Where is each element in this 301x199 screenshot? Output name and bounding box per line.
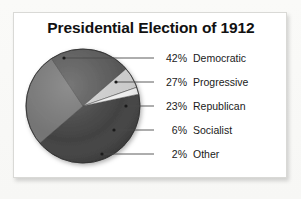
pie-chart	[25, 40, 150, 170]
legend-label-progressive: Progressive	[193, 76, 248, 88]
chart-card: Presidential Election of 1912	[13, 12, 287, 178]
legend-percent-republican: 23%	[154, 100, 187, 112]
legend-percent-progressive: 27%	[154, 76, 187, 88]
legend-percent-socialist: 6%	[154, 124, 187, 136]
legend-label-socialist: Socialist	[193, 124, 232, 136]
legend-label-other: Other	[193, 148, 219, 160]
page-title: Presidential Election of 1912	[14, 19, 288, 37]
legend-percent-other: 2%	[154, 148, 187, 160]
chart-legend: 42% Democratic 27% Progressive 23% Repub…	[154, 40, 286, 172]
legend-item-democratic: 42% Democratic	[154, 51, 246, 65]
legend-item-republican: 23% Republican	[154, 99, 246, 113]
pie-slices-group	[26, 49, 140, 163]
pie-svg	[25, 40, 150, 170]
legend-label-democratic: Democratic	[193, 52, 246, 64]
legend-item-socialist: 6% Socialist	[154, 123, 232, 137]
legend-item-other: 2% Other	[154, 147, 219, 161]
chart-page: Presidential Election of 1912	[0, 0, 301, 199]
legend-label-republican: Republican	[193, 100, 246, 112]
legend-percent-democratic: 42%	[154, 52, 187, 64]
legend-item-progressive: 27% Progressive	[154, 75, 248, 89]
pie-shading-overlay	[26, 49, 140, 163]
